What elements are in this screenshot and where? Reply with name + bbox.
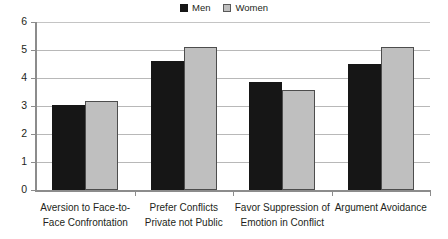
bar-chart: 0123456 Aversion to Face-to-Face Confron…	[0, 14, 448, 239]
bar-women-3	[282, 90, 315, 190]
y-tick-label: 3	[0, 100, 27, 111]
legend-label-women: Women	[235, 2, 268, 13]
legend-swatch-women-icon	[223, 4, 231, 12]
category-label-line2: Emotion in Conflict	[230, 215, 335, 230]
category-label-line2: Face Confrontation	[33, 215, 138, 230]
bar-women-1	[85, 101, 118, 190]
bar-men-3	[249, 82, 282, 190]
y-tick-label: 6	[0, 16, 27, 27]
y-tick-label: 0	[0, 184, 27, 195]
category-label-line1: Favor Suppression of	[235, 202, 330, 213]
category-label-3: Favor Suppression ofEmotion in Conflict	[230, 200, 335, 230]
bar-women-4	[381, 47, 414, 190]
bar-women-2	[184, 47, 217, 190]
x-axis-separator	[332, 191, 333, 196]
legend-item-men: Men	[180, 2, 210, 13]
legend-label-men: Men	[192, 2, 210, 13]
category-label-line1: Aversion to Face-to-	[40, 202, 130, 213]
category-label-1: Aversion to Face-to-Face Confrontation	[33, 200, 138, 230]
bar-men-1	[52, 105, 85, 190]
y-tick-label: 5	[0, 44, 27, 55]
bar-men-4	[348, 64, 381, 190]
x-axis-separator	[135, 191, 136, 196]
plot-area	[36, 22, 430, 190]
y-tick-label: 1	[0, 156, 27, 167]
legend-item-women: Women	[223, 2, 268, 13]
y-tick-label: 4	[0, 72, 27, 83]
chart-legend: Men Women	[0, 1, 448, 14]
category-label-line2: Private not Public	[132, 215, 237, 230]
x-axis-separator	[430, 191, 431, 196]
bar-men-2	[151, 61, 184, 190]
legend-swatch-men-icon	[180, 4, 188, 12]
category-label-4: Argument Avoidance	[329, 200, 434, 215]
y-tick-mark	[31, 190, 36, 191]
category-label-2: Prefer ConflictsPrivate not Public	[132, 200, 237, 230]
category-label-line1: Argument Avoidance	[335, 202, 427, 213]
x-axis-separator	[233, 191, 234, 196]
y-tick-label: 2	[0, 128, 27, 139]
category-label-line1: Prefer Conflicts	[150, 202, 218, 213]
